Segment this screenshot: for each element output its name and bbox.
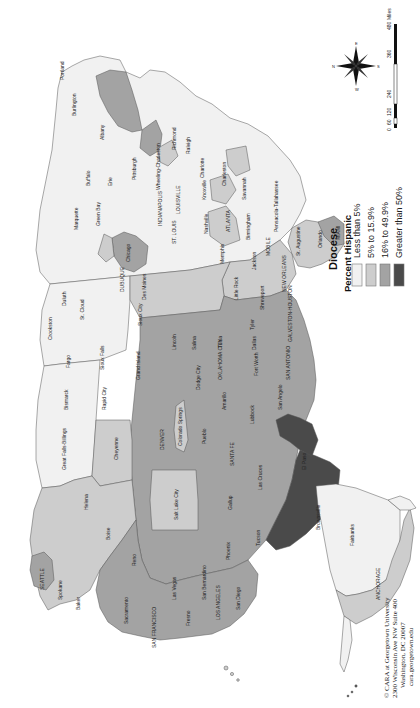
label-birmingham: Birmingham (245, 213, 251, 240)
label-san-francisco: SAN FRANCISCO (151, 607, 157, 648)
label-sioux-city: Sioux City (137, 303, 143, 326)
label-new-orleans: NEW ORLEANS (281, 254, 287, 292)
label-richmond: Richmond (171, 127, 177, 150)
label-dallas: Dallas (251, 336, 257, 350)
label-erie: Erie (107, 177, 113, 186)
label-anchorage: ANCHORAGE (375, 567, 381, 600)
scale-seg (394, 118, 397, 124)
compass-w: W (355, 87, 359, 92)
label-baker: Baker (75, 597, 81, 610)
legend-swatch-5-to-15 (366, 264, 376, 286)
label-wheeling: Wheeling-Charleston (155, 143, 161, 190)
label-las-vegas: Las Vegas (171, 576, 177, 600)
region-aleutians (340, 616, 352, 672)
label-duluth: Duluth (61, 291, 67, 306)
label-tucson: Tucson (255, 530, 261, 546)
scale-tick-480: 480 (386, 21, 392, 30)
island-dot (347, 695, 349, 697)
label-grand-island: Grand Island (135, 351, 141, 380)
label-dodge-city: Dodge City (195, 365, 201, 390)
label-fargo: Fargo (65, 355, 71, 368)
island-dot (355, 685, 357, 687)
label-denver: DENVER (159, 429, 165, 450)
diocese-map: Portland Burlington Albany Buffalo Erie … (0, 0, 420, 708)
label-salina: Salina (191, 336, 197, 350)
label-indianapolis: INDIANAPOLIS (157, 190, 163, 226)
legend-label-less-than-5: Less than 5% (352, 203, 362, 258)
label-savannah: Savannah (241, 177, 247, 200)
label-green-bay: Green Bay (95, 202, 101, 226)
island-dot (351, 691, 353, 693)
label-des-moines: Des Moines (141, 273, 147, 300)
label-lincoln: Lincoln (171, 334, 177, 350)
label-pittsburgh: Pittsburgh (131, 157, 137, 180)
legend-label-16-to-49: 16% to 49.9% (380, 202, 390, 258)
label-bismarck: Bismarck (63, 389, 69, 410)
compass-n: N (332, 64, 335, 69)
label-lubbock: Lubbock (249, 405, 255, 424)
legend-swatch-less-than-5 (352, 264, 362, 286)
label-st-augustine: St. Augustine (295, 226, 301, 256)
label-knoxville: Knoxville (201, 180, 207, 200)
label-phoenix: Phoenix (225, 541, 231, 560)
island (224, 666, 228, 670)
label-reno: Reno (131, 554, 137, 566)
scale-seg (394, 64, 397, 104)
label-dubuque: DUBUQUE (119, 266, 125, 292)
scale-unit: Miles (386, 8, 392, 20)
legend-label-greater-than-50: Greater than 50% (394, 187, 404, 258)
label-san-bernardino: San Bernardino (201, 565, 207, 600)
label-portland-me: Portland (59, 61, 65, 80)
label-mobile: MOBILE (265, 236, 271, 256)
compass-s: S (377, 64, 380, 69)
label-tyler: Tyler (249, 319, 255, 330)
label-sacramento: Sacramento (123, 597, 129, 624)
label-fort-worth: Fort Worth (253, 352, 259, 376)
scale-tick-0: 0 (386, 128, 392, 131)
island (237, 679, 240, 682)
label-san-antonio: SAN ANTONIO (285, 346, 291, 380)
label-nashville: Nashville (203, 213, 209, 234)
label-fairbanks: Fairbanks (349, 524, 355, 546)
label-jackson: Jackson (251, 251, 257, 270)
credit-line-1: © CARA at Georgetown University (383, 597, 391, 698)
label-el-paso: El Paso (301, 453, 307, 470)
label-amarillo: Amarillo (221, 392, 227, 410)
label-shreveport: Shreveport (259, 285, 265, 310)
label-sioux-falls: Sioux Falls (99, 345, 105, 370)
label-st-cloud: St. Cloud (79, 299, 85, 320)
island (230, 672, 233, 675)
label-crookston: Crookston (47, 317, 53, 340)
label-atlanta: ATLANTA (225, 210, 231, 232)
region-montana-light (36, 360, 100, 488)
label-san-diego: San Diego (235, 586, 241, 610)
label-helena: Helena (83, 494, 89, 510)
scale-seg (394, 124, 397, 128)
label-raleigh: Raleigh (185, 137, 191, 154)
label-st-louis: ST. LOUIS (171, 220, 177, 244)
label-rapid-city: Rapid City (101, 386, 107, 410)
label-tulsa: Tulsa (217, 336, 223, 348)
legend-swatch-greater-than-50 (394, 264, 404, 286)
label-louisville: LOUISVILLE (175, 185, 181, 214)
compass-e: E (355, 41, 358, 46)
label-fresno: Fresno (185, 610, 191, 626)
credit-block: © CARA at Georgetown University 2300 Wis… (383, 597, 415, 698)
scale-tick-60: 60 (386, 119, 392, 125)
legend-label-5-to-15: 5% to 15.9% (366, 207, 376, 258)
label-charleston: Charleston (221, 162, 227, 186)
scale-tick-120: 120 (386, 107, 392, 116)
scale-tick-240: 240 (386, 89, 392, 98)
scale-tick-360: 360 (386, 49, 392, 58)
label-pueblo: Pueblo (201, 428, 207, 444)
credit-line-3: Washington, DC 20007 (399, 622, 407, 688)
label-los-angeles: LOS ANGELES (215, 585, 221, 620)
credit-line-4: cara.georgetown.edu (407, 627, 415, 686)
label-salt-lake-city: Salt Lake City (173, 489, 179, 520)
label-burlington: Burlington (71, 93, 77, 116)
label-seattle: SEATTLE (39, 567, 45, 590)
credit-line-2: 2300 Wisconsin Ave NW Suite 400 (391, 598, 399, 698)
scale-seg (394, 104, 397, 118)
label-chicago: Chicago (125, 243, 131, 262)
label-buffalo: Buffalo (85, 170, 91, 186)
